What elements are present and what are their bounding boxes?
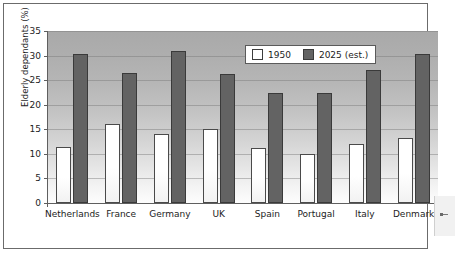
bar-netherlands-2025-est — [73, 54, 88, 203]
y-axis-tick — [44, 56, 48, 57]
legend-item-2025: 2025 (est.) — [303, 49, 368, 60]
x-axis-label-uk: UK — [212, 209, 225, 219]
x-axis-label-italy: Italy — [355, 209, 375, 219]
x-axis-line — [47, 203, 439, 204]
y-axis-tick-label: 25 — [30, 75, 41, 85]
legend-item-1950: 1950 — [252, 49, 291, 60]
bar-denmark-1950 — [398, 138, 413, 203]
x-axis-labels: NetherlandsFranceGermanyUKSpainPortugalI… — [48, 207, 438, 227]
y-axis-tick — [44, 203, 48, 204]
y-axis-tick-label: 5 — [35, 173, 41, 183]
bar-netherlands-1950 — [56, 147, 71, 203]
x-axis-label-netherlands: Netherlands — [45, 209, 100, 219]
x-axis-label-spain: Spain — [255, 209, 280, 219]
y-axis-tick-label: 30 — [30, 51, 41, 61]
bar-italy-1950 — [349, 144, 364, 203]
y-axis-tick — [44, 105, 48, 106]
bar-uk-2025-est — [220, 74, 235, 203]
bar-uk-1950 — [203, 129, 218, 203]
bar-portugal-1950 — [300, 154, 315, 203]
y-axis-tick-label: 0 — [35, 198, 41, 208]
y-axis-tick — [44, 154, 48, 155]
cropped-edge-panel — [434, 196, 455, 236]
x-axis-label-denmark: Denmark — [393, 209, 434, 219]
legend-swatch-2025-icon — [303, 49, 314, 60]
legend-label-2025: 2025 (est.) — [319, 50, 368, 60]
bar-germany-2025-est — [171, 51, 186, 203]
figure-frame: 05101520253035 Elderly dependants (%) Ne… — [3, 3, 428, 249]
legend-swatch-1950-icon — [252, 49, 263, 60]
bar-portugal-2025-est — [317, 93, 332, 203]
y-axis-title: Elderly dependants (%) — [20, 0, 30, 132]
chart-plot-area — [48, 31, 438, 206]
bar-italy-2025-est — [366, 70, 381, 203]
x-axis-label-france: France — [106, 209, 136, 219]
y-axis-tick-label: 15 — [30, 124, 41, 134]
bar-france-2025-est — [122, 73, 137, 203]
y-axis-tick — [44, 129, 48, 130]
bar-germany-1950 — [154, 134, 169, 203]
y-axis-tick — [44, 80, 48, 81]
x-axis-label-portugal: Portugal — [297, 209, 334, 219]
y-axis-tick — [44, 31, 48, 32]
y-axis-tick-label: 10 — [30, 149, 41, 159]
bar-spain-1950 — [251, 148, 266, 203]
bar-france-1950 — [105, 124, 120, 203]
y-axis-tick-label: 20 — [30, 100, 41, 110]
bar-spain-2025-est — [268, 93, 283, 203]
bars-layer — [48, 31, 438, 203]
chart-legend: 1950 2025 (est.) — [245, 45, 376, 64]
y-axis-tick-label: 35 — [30, 26, 41, 36]
x-axis-label-germany: Germany — [149, 209, 190, 219]
bar-denmark-2025-est — [415, 54, 430, 203]
edge-marker-icon — [441, 214, 448, 215]
y-axis-tick — [44, 178, 48, 179]
legend-label-1950: 1950 — [268, 50, 291, 60]
